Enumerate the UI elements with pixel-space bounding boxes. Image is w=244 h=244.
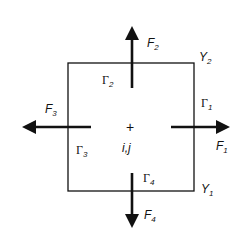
label-f1: F1 bbox=[216, 139, 228, 155]
label-f2: F2 bbox=[147, 36, 159, 52]
arrow-f4 bbox=[125, 173, 139, 228]
center-label: i,j bbox=[122, 141, 131, 155]
label-f4: F4 bbox=[144, 208, 156, 224]
arrow-f1 bbox=[171, 120, 230, 134]
label-f3: F3 bbox=[45, 102, 57, 118]
label-y2: Y2 bbox=[199, 50, 212, 66]
label-gamma1: Γ1 bbox=[201, 96, 212, 112]
control-volume-diagram: + i,j F1 F2 F3 F4 Γ1 Γ2 Γ3 Γ4 Y2 Y1 bbox=[0, 0, 244, 244]
arrow-f3 bbox=[22, 120, 91, 134]
label-gamma2: Γ2 bbox=[102, 73, 114, 89]
label-y1: Y1 bbox=[201, 182, 213, 198]
label-gamma3: Γ3 bbox=[76, 143, 88, 159]
arrow-f2 bbox=[125, 26, 139, 88]
label-gamma4: Γ4 bbox=[143, 171, 155, 187]
center-marker: + bbox=[126, 119, 134, 135]
